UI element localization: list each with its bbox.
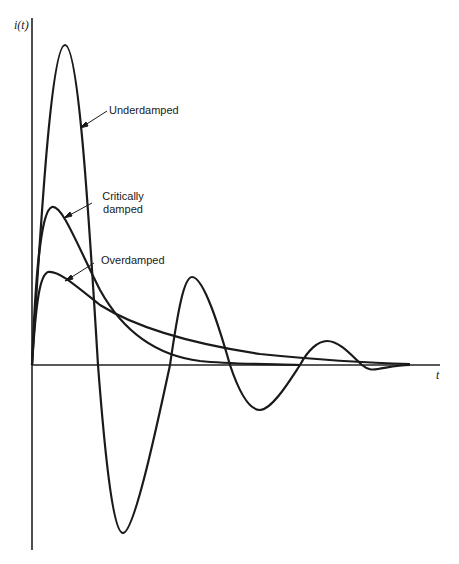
overdamped-curve <box>32 272 410 365</box>
underdamped-label: Underdamped <box>109 104 179 117</box>
underdamped-curve <box>32 45 410 533</box>
y-axis-label: i(t) <box>14 18 29 33</box>
critically-damped-label-line2: damped <box>99 203 147 216</box>
x-axis-label: t <box>436 368 439 383</box>
critically-damped-curve <box>32 207 300 365</box>
critically-damped-label-line1: Critically <box>97 190 149 203</box>
underdamped-arrow <box>80 111 107 128</box>
overdamped-label: Overdamped <box>101 254 165 267</box>
overdamped-arrow <box>65 263 94 281</box>
damping-response-diagram <box>0 0 459 564</box>
